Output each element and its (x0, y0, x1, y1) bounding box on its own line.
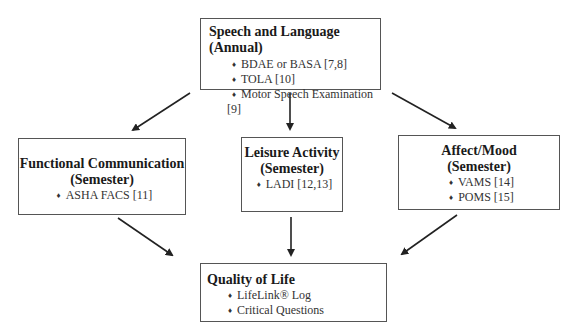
list-item: ♦Motor Speech Examination [9] (227, 87, 380, 117)
node-title: Functional Communication (19, 156, 185, 172)
diamond-bullet-icon: ♦ (52, 188, 66, 203)
list-item: ♦ASHA FACS [11] (19, 188, 185, 203)
diamond-bullet-icon: ♦ (252, 177, 266, 192)
diamond-bullet-icon: ♦ (444, 175, 458, 190)
list-item: ♦VAMS [14] (399, 175, 559, 190)
list-item: ♦POMS [15] (399, 190, 559, 205)
node-subtitle: (Semester) (19, 172, 185, 188)
arrow-affect-to-quality (402, 215, 457, 254)
arrow-speech-to-affect (392, 93, 455, 128)
node-subtitle: (Semester) (399, 159, 559, 175)
arrow-functional-to-quality (118, 218, 172, 255)
node-functional-communication: Functional Communication (Semester) ♦ASH… (18, 138, 186, 215)
arrow-speech-to-functional (133, 93, 190, 130)
diamond-bullet-icon: ♦ (223, 303, 237, 318)
diamond-bullet-icon: ♦ (444, 190, 458, 205)
list-item: ♦TOLA [10] (227, 72, 380, 87)
node-speech-language: Speech and Language (Annual) ♦BDAE or BA… (200, 18, 381, 90)
node-leisure-activity: Leisure Activity (Semester) ♦LADI [12,13… (241, 137, 343, 212)
diamond-bullet-icon: ♦ (223, 288, 237, 303)
list-item: ♦LifeLink® Log (223, 288, 386, 303)
node-quality-of-life: Quality of Life ♦LifeLink® Log ♦Critical… (200, 263, 387, 322)
node-title: Leisure Activity (242, 145, 342, 161)
node-affect-mood: Affect/Mood (Semester) ♦VAMS [14] ♦POMS … (398, 135, 560, 210)
node-subtitle: (Semester) (242, 161, 342, 177)
list-item: ♦LADI [12,13] (242, 177, 342, 192)
list-item: ♦BDAE or BASA [7,8] (227, 57, 380, 72)
diamond-bullet-icon: ♦ (227, 72, 241, 87)
list-item: ♦Critical Questions (223, 303, 386, 318)
diamond-bullet-icon: ♦ (227, 87, 241, 102)
node-title: Speech and Language (Annual) (209, 24, 380, 56)
node-title: Quality of Life (207, 272, 386, 288)
diamond-bullet-icon: ♦ (227, 57, 241, 72)
node-title: Affect/Mood (399, 143, 559, 159)
